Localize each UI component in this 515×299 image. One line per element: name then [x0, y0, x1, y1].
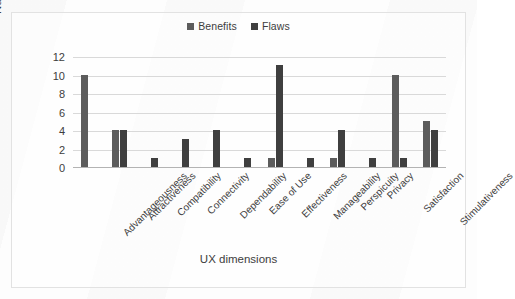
gridline — [73, 150, 446, 151]
plot-area — [73, 57, 446, 168]
x-tick-label: Stimulativeness — [458, 170, 515, 227]
gridline — [73, 113, 446, 114]
gridline — [73, 57, 446, 58]
bar-flaws-connectivity — [182, 139, 189, 167]
bar-benefits-advantageousness — [81, 75, 88, 168]
x-axis-title: UX dimensions — [0, 253, 477, 265]
bar-flaws-privacy — [369, 158, 376, 167]
bar-flaws-satisfaction — [400, 158, 407, 167]
bar-flaws-dependability — [213, 130, 220, 167]
bar-flaws-manageability — [307, 158, 314, 167]
bar-benefits-satisfaction — [392, 75, 399, 168]
bar-flaws-perspicuity — [338, 130, 345, 167]
legend-item-flaws[interactable]: Flaws — [251, 20, 290, 32]
chart-legend: BenefitsFlaws — [0, 20, 477, 32]
x-axis-line — [73, 167, 446, 168]
legend-swatch-icon — [251, 23, 258, 30]
y-axis-title: Number of comments — [0, 0, 3, 34]
legend-item-benefits[interactable]: Benefits — [187, 20, 237, 32]
bar-benefits-perspicuity — [330, 158, 337, 167]
bar-benefits-stimulativeness — [423, 121, 430, 167]
legend-label: Benefits — [198, 20, 237, 32]
bar-flaws-stimulativeness — [431, 130, 438, 167]
legend-swatch-icon — [187, 23, 194, 30]
bar-flaws-attractiveness — [120, 130, 127, 167]
gridline — [73, 76, 446, 77]
bar-flaws-compatibility — [151, 158, 158, 167]
bar-flaws-effectiveness — [276, 65, 283, 167]
bar-flaws-ease-of-use — [244, 158, 251, 167]
x-axis-tick-labels: AdvantageousnessAttractivenessCompatibil… — [73, 170, 446, 260]
gridline — [73, 131, 446, 132]
legend-label: Flaws — [262, 20, 290, 32]
gridline — [73, 94, 446, 95]
bar-benefits-attractiveness — [112, 130, 119, 167]
bar-benefits-effectiveness — [268, 158, 275, 167]
